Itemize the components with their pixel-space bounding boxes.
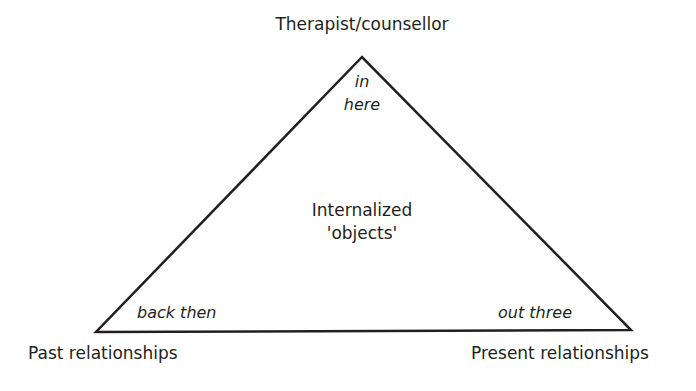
triangle-of-insight-diagram: Therapist/counsellor in here Internalize… (0, 0, 696, 391)
vertex-label-present-relationships: Present relationships (471, 345, 649, 362)
corner-text-in: in (355, 74, 370, 90)
vertex-label-therapist: Therapist/counsellor (275, 16, 448, 33)
corner-text-out-three: out three (498, 305, 572, 321)
corner-text-here: here (344, 97, 380, 113)
triangle-shape (0, 0, 696, 391)
center-text-objects: 'objects' (327, 225, 398, 242)
corner-text-back-then: back then (137, 305, 217, 321)
center-text-internalized: Internalized (312, 202, 412, 219)
vertex-label-past-relationships: Past relationships (28, 345, 178, 362)
